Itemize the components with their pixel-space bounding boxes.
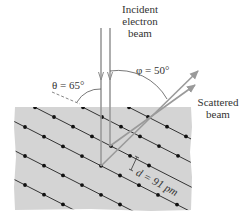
lattice-atom [23, 183, 27, 187]
lattice-atom [81, 105, 85, 109]
lattice-atom [138, 135, 142, 139]
lattice-atom [23, 125, 27, 129]
lattice-atom [80, 183, 84, 187]
lattice-atom [137, 183, 141, 187]
incident-label-line1: Incident [122, 3, 158, 15]
lattice-atom [42, 193, 46, 197]
lattice-atom [119, 125, 123, 129]
lattice-atom [165, 125, 169, 129]
scattered-label-line2: beam [198, 108, 239, 120]
lattice-atom [80, 212, 84, 216]
lattice-atom [176, 154, 180, 158]
lattice-atom [61, 203, 65, 207]
lattice-atom [71, 125, 75, 129]
incident-label-line2: electron [122, 15, 158, 27]
lattice-atom [42, 135, 46, 139]
lattice-atom [147, 164, 151, 168]
lattice-atom [61, 145, 65, 149]
lattice-atom [127, 105, 131, 109]
lattice-atom [80, 154, 84, 158]
lattice-atom [118, 203, 122, 207]
incident-beam-label: Incident electron beam [122, 3, 158, 39]
lattice-atom [90, 135, 94, 139]
lattice-atom [156, 193, 160, 197]
lattice-atom [175, 203, 179, 207]
lattice-atom [118, 174, 122, 178]
theta-angle-label: θ = 65° [52, 79, 84, 91]
lattice-atom [42, 164, 46, 168]
lattice-atom [184, 135, 188, 139]
lattice-atom [23, 154, 27, 158]
electron-diffraction-diagram: Incident electron beam φ = 50° θ = 65° S… [0, 0, 250, 222]
incident-label-line3: beam [122, 27, 158, 39]
lattice-atom [157, 144, 161, 148]
lattice-atom [33, 105, 37, 109]
lattice-atom [99, 193, 103, 197]
lattice-atom [52, 115, 56, 119]
dashed-reference-line [52, 92, 80, 104]
lattice-atom [137, 212, 141, 216]
scattered-beam-label: Scattered beam [198, 96, 239, 120]
phi-angle-label: φ = 50° [136, 64, 169, 76]
lattice-atom [43, 86, 47, 90]
lattice-atom [61, 174, 65, 178]
scattered-label-line1: Scattered [198, 96, 239, 108]
lattice-atom [128, 154, 132, 158]
